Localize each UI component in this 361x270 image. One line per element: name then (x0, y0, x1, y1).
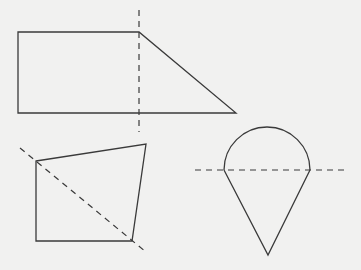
triangle-shape (224, 170, 310, 255)
semicircle-arc (224, 127, 310, 170)
trapezoid-shape (18, 32, 236, 113)
quadrilateral-shape (36, 144, 146, 241)
figure-trapezoid (18, 10, 236, 132)
diagram-canvas (0, 0, 361, 270)
figure-quadrilateral (20, 144, 146, 252)
figure-semicircle-triangle (195, 127, 344, 255)
quadrilateral-dashed-line (20, 148, 146, 252)
